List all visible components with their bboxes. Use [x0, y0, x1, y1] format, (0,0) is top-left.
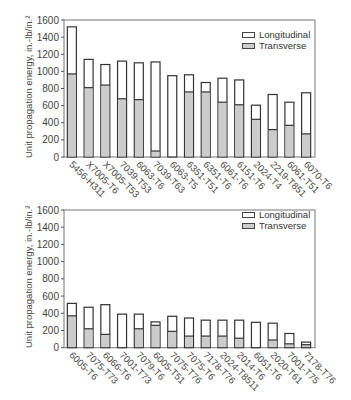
y-tick-label: 1000	[37, 66, 60, 77]
y-tick-label: 1000	[37, 256, 60, 267]
bar-transverse	[85, 329, 93, 347]
bar-transverse	[118, 99, 126, 157]
legend-item-longitudinal: Longitudinal	[242, 209, 310, 220]
top-chart-legend: Longitudinal Transverse	[242, 29, 310, 51]
longitudinal-swatch	[242, 212, 255, 218]
y-tick-label: 0	[53, 152, 59, 163]
bar-longitudinal	[118, 314, 127, 348]
y-tick-label: 1400	[37, 32, 60, 43]
bar-transverse	[286, 125, 294, 156]
bottom-chart: 020040060080010001200140016006005-T67075…	[0, 190, 351, 390]
bar-transverse	[85, 88, 93, 157]
bar-transverse	[235, 105, 243, 157]
legend-item-longitudinal: Longitudinal	[242, 29, 310, 40]
bar-transverse	[202, 336, 210, 347]
y-tick-label: 600	[42, 291, 59, 302]
y-tick-label: 1200	[37, 49, 60, 60]
bar-transverse	[269, 130, 277, 157]
y-tick-label: 200	[42, 134, 59, 145]
bar-transverse	[68, 74, 76, 156]
top-chart: 020040060080010001200140016005456-H311X7…	[0, 0, 351, 200]
bar-transverse	[219, 336, 227, 347]
bottom-chart-y-axis-label: Unit propagation energy, in.-lb/in.²	[23, 206, 34, 348]
y-tick-label: 400	[42, 308, 59, 319]
bottom-chart-legend: Longitudinal Transverse	[242, 209, 310, 231]
bar-transverse	[101, 334, 109, 347]
y-tick-label: 1200	[37, 239, 60, 250]
legend-label-longitudinal: Longitudinal	[259, 29, 310, 40]
y-tick-label: 200	[42, 325, 59, 336]
bar-transverse	[168, 331, 176, 347]
bar-transverse	[185, 336, 193, 347]
bar-transverse	[219, 102, 227, 156]
y-tick-label: 0	[53, 342, 59, 353]
bar-transverse	[135, 100, 143, 157]
bar-transverse	[185, 92, 193, 156]
legend-label-transverse: Transverse	[259, 40, 306, 51]
y-tick-label: 1400	[37, 222, 60, 233]
bar-longitudinal	[251, 322, 260, 347]
legend-label-longitudinal: Longitudinal	[259, 209, 310, 220]
y-tick-label: 800	[42, 83, 59, 94]
legend-label-transverse: Transverse	[259, 220, 306, 231]
longitudinal-swatch	[242, 32, 255, 38]
y-tick-label: 400	[42, 117, 59, 128]
y-tick-label: 1600	[37, 15, 60, 26]
bar-transverse	[101, 85, 109, 156]
bar-transverse	[302, 134, 310, 157]
bar-transverse	[152, 325, 160, 347]
bar-transverse	[135, 329, 143, 347]
y-tick-label: 800	[42, 273, 59, 284]
bar-transverse	[68, 316, 76, 347]
transverse-swatch	[242, 223, 255, 229]
y-tick-label: 600	[42, 100, 59, 111]
bar-longitudinal	[151, 62, 160, 157]
y-tick-label: 1600	[37, 205, 60, 216]
top-chart-y-axis-label: Unit propagation energy, in.-lb/in.²	[23, 16, 34, 158]
transverse-swatch	[242, 43, 255, 49]
legend-item-transverse: Transverse	[242, 220, 310, 231]
bar-transverse	[269, 340, 277, 347]
bar-transverse	[252, 119, 260, 156]
bar-transverse	[152, 151, 160, 156]
bar-transverse	[235, 338, 243, 347]
bar-transverse	[202, 92, 210, 156]
bar-longitudinal	[168, 76, 177, 157]
legend-item-transverse: Transverse	[242, 40, 310, 51]
